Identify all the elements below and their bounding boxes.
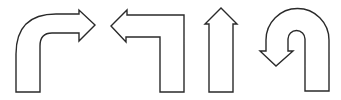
arrow-diagram: Turn right arrow Turn left arrow Straigh…: [0, 0, 341, 100]
turn-left-arrow-icon: [111, 10, 184, 92]
turn-right-arrow-icon: [16, 10, 95, 92]
arrows-svg: [0, 0, 341, 100]
u-turn-arrow-icon: [260, 9, 329, 92]
straight-arrow-icon: [205, 8, 237, 92]
